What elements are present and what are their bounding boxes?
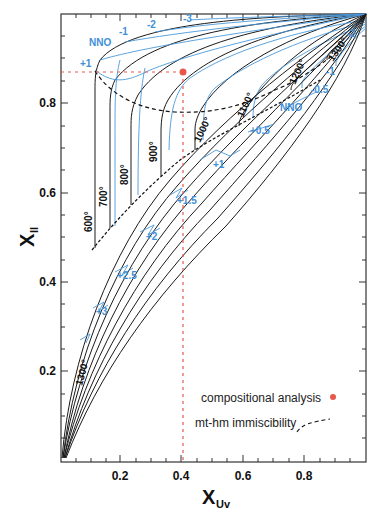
x-tick-label: 0.4 xyxy=(173,469,190,483)
legend-dashed-line-icon xyxy=(297,419,330,432)
isotherm-label-900: 900° xyxy=(148,141,159,162)
legend: compositional analysis mt-hm immiscibili… xyxy=(195,391,336,432)
buffer-label-minus0.5-lower: -0.5 xyxy=(311,84,329,95)
y-tick-label: 0.2 xyxy=(39,364,56,378)
buffer-label-plus2.5-lower: +2.5 xyxy=(117,270,137,281)
chart-svg: 0.2 0.4 0.6 0.8 0.2 0.4 0.6 0.8 X Uv X I… xyxy=(0,0,380,513)
buffer-label-minus3-upper: -3 xyxy=(183,13,192,24)
svg-text:X: X xyxy=(16,233,38,247)
svg-text:Il: Il xyxy=(28,227,40,233)
x-axis-title: X Uv xyxy=(202,486,231,510)
buffer-label-plus1.5-lower: +1.5 xyxy=(177,195,197,206)
y-tick-label: 0.6 xyxy=(39,186,56,200)
svg-text:X: X xyxy=(202,486,216,508)
svg-text:Uv: Uv xyxy=(216,498,231,510)
isotherm-label-800: 800° xyxy=(119,164,130,185)
y-ticks xyxy=(61,36,366,438)
buffer-label-plus0.5-lower: +0.5 xyxy=(250,125,270,136)
isotherm-label-700: 700° xyxy=(98,186,109,207)
legend-label-immiscibility: mt-hm immiscibility xyxy=(195,416,296,430)
buffer-label-minus2-lower: -2 xyxy=(347,28,356,39)
buffer-label-nno-lower: NNO xyxy=(280,102,302,113)
x-tick-label: 0.8 xyxy=(296,469,313,483)
y-tick-label: 0.8 xyxy=(39,96,56,110)
buffer-lines-upper xyxy=(95,14,366,226)
x-tick-label: 0.2 xyxy=(112,469,129,483)
buffer-label-minus1-lower: -1 xyxy=(326,66,335,77)
legend-point-icon xyxy=(330,394,336,400)
y-tick-label: 0.4 xyxy=(39,275,56,289)
isotherm-label-600: 600° xyxy=(83,211,94,232)
buffer-label-minus1-upper: -1 xyxy=(119,26,128,37)
buffer-label-minus2-upper: -2 xyxy=(147,19,156,30)
compositional-analysis-point xyxy=(180,69,187,76)
buffer-label-plus1-upper: +1 xyxy=(80,58,92,69)
buffer-label-nno-upper: NNO xyxy=(89,37,111,48)
buffer-label-plus1-lower: +1 xyxy=(213,159,225,170)
legend-label-compositional-analysis: compositional analysis xyxy=(201,391,321,405)
isotherms-upper xyxy=(95,14,366,248)
x-tick-label: 0.6 xyxy=(235,469,252,483)
y-axis-title: X Il xyxy=(16,227,40,247)
buffer-label-plus3-lower: +3 xyxy=(96,306,108,317)
buffer-label-plus2-lower: +2 xyxy=(146,231,158,242)
